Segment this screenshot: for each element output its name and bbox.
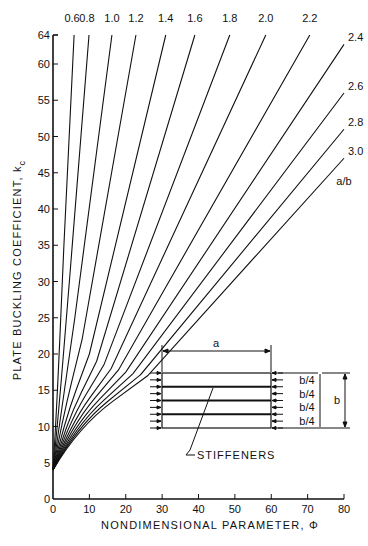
x-tick-label: 80 [338, 503, 350, 515]
curve-label-2.4: 2.4 [348, 31, 363, 43]
curve-label-1.8: 1.8 [222, 12, 237, 24]
stiffened-plate-diagram [150, 345, 350, 455]
y-axis-title: PLATE BUCKLING COEFFICIENT, kc [11, 160, 27, 381]
axes: 0510152025303540455055606401020304050607… [38, 29, 350, 515]
curve-label-1.2: 1.2 [128, 12, 143, 24]
inset-spacing-1: b/4 [299, 374, 314, 386]
inset-dimension-b: b [334, 394, 340, 406]
y-tick-label: 10 [38, 421, 50, 433]
curve-label-0.8: 0.8 [79, 12, 94, 24]
legend-title: a/b [336, 175, 351, 187]
curve-label-1.6: 1.6 [187, 12, 202, 24]
curve-label-1.4: 1.4 [158, 12, 173, 24]
y-tick-label: 15 [38, 384, 50, 396]
x-tick-label: 20 [120, 503, 132, 515]
curve-label-2.0: 2.0 [258, 12, 273, 24]
y-tick-label: 35 [38, 239, 50, 251]
curve-ab-1.8 [53, 35, 230, 470]
y-tick-label: 45 [38, 167, 50, 179]
y-tick-label: 25 [38, 312, 50, 324]
x-tick-label: 40 [192, 503, 204, 515]
curve-label-2.6: 2.6 [348, 80, 363, 92]
inset-spacing-4: b/4 [299, 415, 314, 427]
y-tick-label: 40 [38, 203, 50, 215]
y-tick-label: 30 [38, 276, 50, 288]
x-tick-label: 50 [229, 503, 241, 515]
curve-label-2.2: 2.2 [302, 12, 317, 24]
curve-labels: 0.60.81.01.21.41.61.82.02.22.42.62.83.0 [64, 12, 363, 157]
x-tick-label: 30 [156, 503, 168, 515]
x-axis-title: NONDIMENSIONAL PARAMETER, Φ [101, 519, 319, 531]
curve-label-0.6: 0.6 [64, 12, 79, 24]
curve-label-2.8: 2.8 [348, 116, 363, 128]
y-tick-label: 5 [44, 457, 50, 469]
curve-label-3.0: 3.0 [348, 145, 363, 157]
curve-ab-2.0 [53, 35, 266, 470]
curve-label-1.0: 1.0 [104, 12, 119, 24]
x-tick-label: 0 [50, 503, 56, 515]
y-tick-label: 64 [38, 29, 50, 41]
inset-spacing-2: b/4 [299, 388, 314, 400]
inset-dimension-a: a [213, 337, 220, 349]
y-tick-label: 50 [38, 131, 50, 143]
y-tick-label: 55 [38, 94, 50, 106]
stiffeners-callout: STIFFENERS [197, 449, 275, 461]
x-tick-label: 70 [302, 503, 314, 515]
curve-ab-1.4 [53, 35, 166, 470]
inset-spacing-3: b/4 [299, 401, 314, 413]
x-tick-label: 60 [265, 503, 277, 515]
x-tick-label: 10 [83, 503, 95, 515]
y-tick-label: 20 [38, 348, 50, 360]
y-tick-label: 60 [38, 58, 50, 70]
buckling-chart: 0510152025303540455055606401020304050607… [0, 0, 368, 546]
